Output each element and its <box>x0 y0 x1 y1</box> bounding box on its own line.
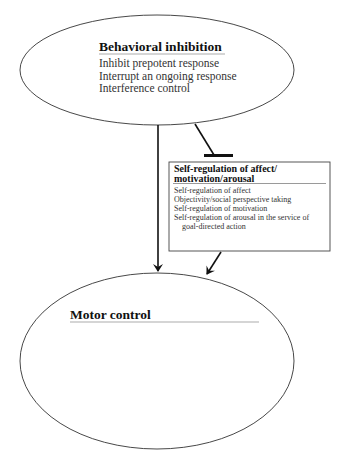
behavioral-inhibition-title: Behavioral inhibition <box>99 39 222 55</box>
self-regulation-item: goal-directed action <box>182 222 246 232</box>
self-regulation-title-line2: motivation/arousal <box>174 173 254 184</box>
motor-control-title: Motor control <box>70 307 151 323</box>
arrow-self-regulation-to-motor <box>207 252 221 274</box>
inhibition-connector <box>195 124 214 155</box>
behavioral-inhibition-item: Inhibit prepotent response <box>99 57 219 69</box>
motor-control-ellipse <box>20 273 294 449</box>
behavioral-inhibition-item: Interrupt an ongoing response <box>99 70 237 82</box>
behavioral-inhibition-item: Interference control <box>99 82 190 94</box>
